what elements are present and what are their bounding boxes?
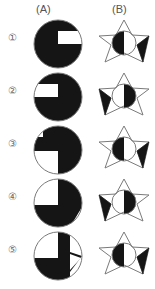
figure-row: ③ [0,124,155,176]
row-3-shape-b [97,123,151,177]
figure-sheet: (A) (B) ① ② [0,0,155,289]
row-number: ④ [4,189,20,205]
figure-row: ④ [0,177,155,229]
figure-row: ① [0,18,155,70]
row-number: ① [4,30,20,46]
row-5-shape-a [31,230,87,282]
column-header-a: (A) [36,3,51,15]
row-5-shape-b [97,229,151,283]
row-number: ⑤ [4,242,20,258]
figure-row: ② [0,71,155,123]
row-3-shape-a [31,124,87,176]
row-1-shape-b [97,17,151,71]
row-number: ③ [4,136,20,152]
row-number: ② [4,83,20,99]
row-2-shape-b [97,70,151,124]
row-1-shape-a [31,18,87,70]
row-4-shape-a [31,177,87,229]
column-header-b: (B) [112,3,127,15]
row-4-shape-b [97,176,151,230]
figure-row: ⑤ [0,230,155,282]
row-2-shape-a [31,71,87,123]
